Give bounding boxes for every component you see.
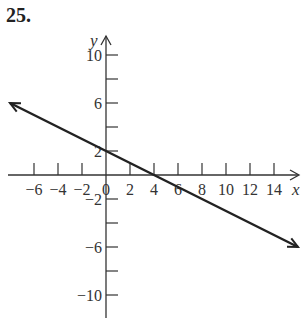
y-tick-label: −6 xyxy=(85,239,102,256)
x-tick-label: −6 xyxy=(25,181,42,198)
x-tick-label: 2 xyxy=(126,181,134,198)
line-graph: −6−4−202468101214−10−6−22610xy xyxy=(0,0,303,318)
y-tick-label: 6 xyxy=(94,95,102,112)
x-tick-label: 4 xyxy=(150,181,158,198)
x-tick-label: 12 xyxy=(242,181,258,198)
x-axis-label: x xyxy=(291,180,300,199)
y-tick-label: −10 xyxy=(77,287,102,304)
x-tick-label: 0 xyxy=(102,181,110,198)
x-tick-label: 10 xyxy=(218,181,234,198)
x-tick-label: 8 xyxy=(198,181,206,198)
x-tick-label: −4 xyxy=(49,181,66,198)
x-tick-label: 14 xyxy=(266,181,282,198)
y-tick-label: −2 xyxy=(85,191,102,208)
y-axis-label: y xyxy=(88,31,98,50)
